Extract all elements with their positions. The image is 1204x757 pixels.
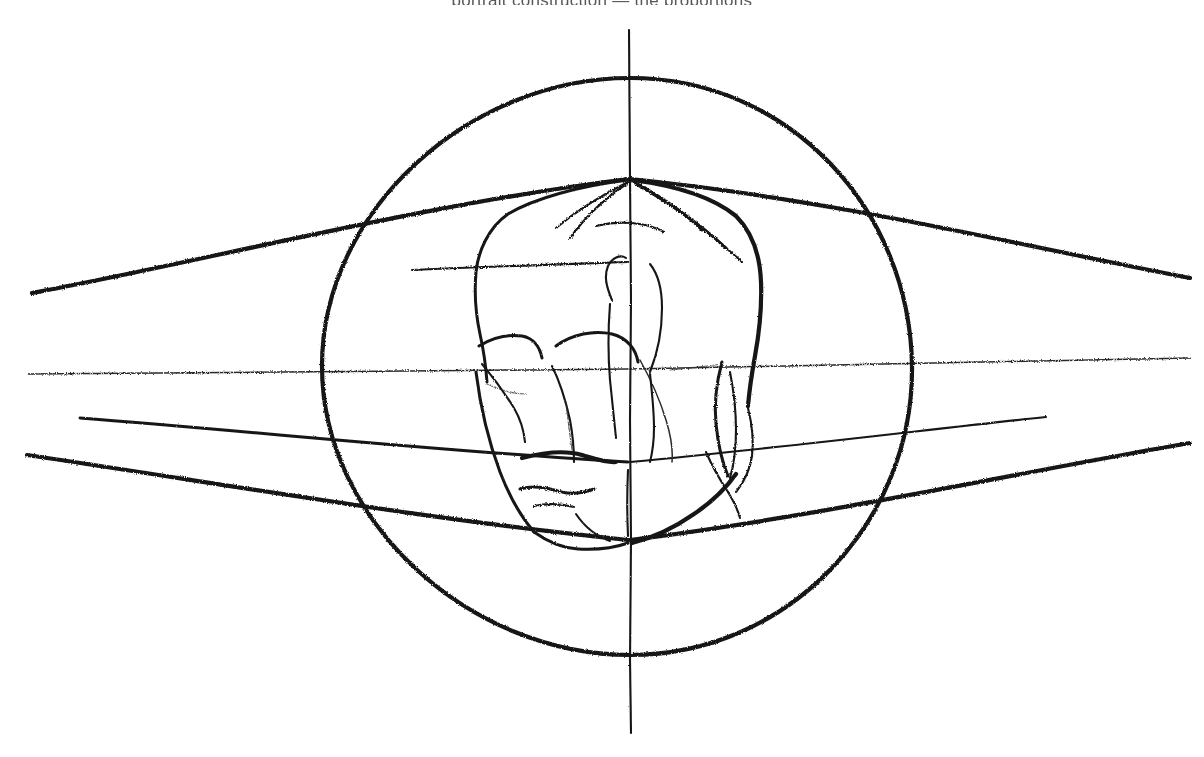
head-construction-drawing [0,0,1204,757]
nose-base-line-left [80,418,628,462]
chin-vertical [627,470,628,536]
mouth-lower-lip [534,504,574,507]
brow-perspective-line-right [630,179,1190,278]
mouth-chin-line-right [630,443,1190,540]
crown-radiating-line-5 [640,186,742,262]
nose-side-left [609,304,617,438]
right-ear-inner [730,372,736,478]
mouth-upper-lip [520,487,594,493]
right-ear-outer [715,362,728,476]
eye-socket-right-outer [640,360,672,462]
centerline-axis [629,30,631,733]
nose-bridge-right [650,264,662,372]
eye-line-left [28,369,628,374]
drawing-canvas: portrait construction — the proportions [0,0,1204,757]
mouth-chin-line-left [27,455,628,540]
nose-base-line-right [630,417,1046,462]
cranium-outline-right [632,180,761,406]
crown-radiating-line-4 [636,184,726,248]
brow-ridge-right [556,333,638,363]
guide-left-face-plane [487,384,526,394]
eye-socket-right [552,366,574,462]
cranial-sphere-circle [322,78,912,655]
short-brow-line [412,262,628,270]
cranium-outline-left [475,180,628,382]
brow-perspective-line [32,179,628,293]
brow-ridge-left [479,335,542,358]
